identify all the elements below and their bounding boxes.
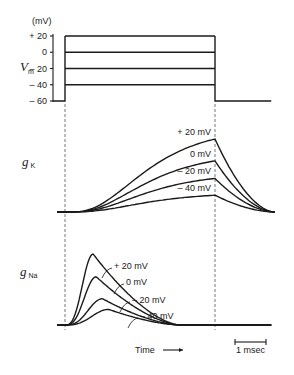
gk-axis-label: gK (22, 154, 36, 169)
scale-bar: 1 msec (235, 339, 266, 355)
vm-tick-label: – 20 (29, 64, 47, 74)
scale-bar-label: 1 msec (236, 345, 266, 355)
vm-holding-trace-pre (53, 36, 65, 101)
time-label: Time (135, 345, 155, 355)
gna-series-label: 0 mV (126, 277, 147, 287)
gk-series-label: 0 mV (190, 149, 211, 159)
time-arrow-icon (179, 348, 183, 352)
vm-tick-label: 0 (42, 47, 47, 57)
vm-unit-label: (mV) (32, 16, 52, 26)
vm-tick-label: – 40 (29, 80, 47, 90)
vm-panel: (mV) Vm + 200– 20– 40– 60 (20, 16, 271, 106)
gna-panel: gNa + 20 mV0 mV– 20 mV– 40 mV (20, 254, 271, 328)
gna-label-leader (128, 318, 138, 328)
gk-series-label: – 40 mV (177, 183, 211, 193)
gna-series-label: + 20 mV (114, 261, 148, 271)
time-annotation: Time (135, 345, 183, 355)
gk-series-label: – 20 mV (177, 166, 211, 176)
gna-axis-label: gNa (20, 264, 38, 279)
vm-holding-trace-post (215, 36, 271, 101)
gna-series-label: – 40 mV (140, 311, 174, 321)
vm-tick-label: + 20 (29, 31, 47, 41)
gna-series-label: – 20 mV (132, 295, 166, 305)
voltage-clamp-figure: (mV) Vm + 200– 20– 40– 60 gK + 20 mV0 mV… (0, 0, 294, 375)
gna-label-leader (102, 268, 112, 278)
gk-panel: gK + 20 mV0 mV– 20 mV– 40 mV (22, 127, 275, 212)
gk-series-label: + 20 mV (177, 127, 211, 137)
vm-tick-label: – 60 (29, 96, 47, 106)
